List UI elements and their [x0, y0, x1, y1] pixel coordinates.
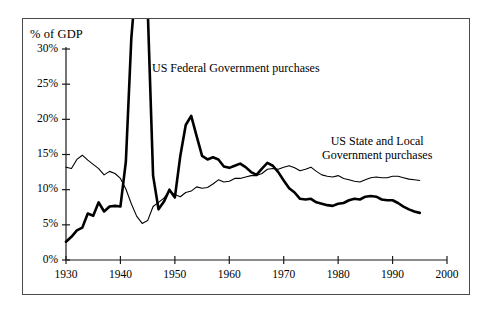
y-tick-label: 20% [26, 112, 58, 124]
y-tick-label: 15% [26, 147, 58, 159]
x-tick-label: 1930 [46, 268, 86, 280]
x-tick-label: 2000 [427, 268, 467, 280]
series-label-federal: US Federal Government purchases [152, 62, 320, 76]
series-label-state-local-line2: Government purchases [322, 149, 432, 163]
x-tick-label: 1960 [209, 268, 249, 280]
x-tick-label: 1990 [373, 268, 413, 280]
series-label-state-local: US State and Local Government purchases [322, 135, 432, 162]
y-tick-label: 10% [26, 182, 58, 194]
x-tick-label: 1940 [100, 268, 140, 280]
x-tick-label: 1980 [318, 268, 358, 280]
x-tick-label: 1970 [264, 268, 304, 280]
y-tick-label: 0% [26, 253, 58, 265]
x-tick-label: 1950 [155, 268, 195, 280]
y-tick-label: 30% [26, 42, 58, 54]
series-line-federal [66, 0, 420, 242]
y-tick-label: 25% [26, 77, 58, 89]
y-tick-label: 5% [26, 217, 58, 229]
series-label-state-local-line1: US State and Local [322, 135, 432, 149]
chart-figure: % of GDP 0%5%10%15%20%25%30% 19301940195… [0, 0, 494, 312]
data-series-group [66, 0, 420, 242]
